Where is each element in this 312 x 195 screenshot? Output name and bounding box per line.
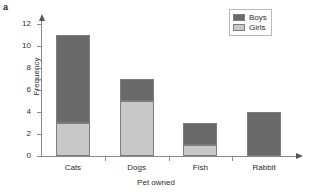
- bar-segment-dogs-boys[interactable]: [120, 79, 154, 101]
- bar-segment-cats-girls[interactable]: [56, 123, 90, 156]
- y-axis-title: Frequency: [32, 32, 41, 122]
- x-axis-tick: [105, 157, 106, 161]
- y-axis-tick: 12: [37, 24, 41, 25]
- x-axis-category-label: Cats: [65, 163, 81, 172]
- bar-group-fish[interactable]: [183, 123, 217, 156]
- bar-segment-rabbit-boys[interactable]: [247, 112, 281, 156]
- legend-swatch-girls: [233, 24, 245, 31]
- x-axis-category-label: Dogs: [127, 163, 146, 172]
- plot-area: 024681012 CatsDogsFishRabbit Frequency: [41, 20, 303, 156]
- y-axis-tick-label: 10: [22, 42, 31, 50]
- legend-label: Boys: [249, 14, 267, 22]
- bar-segment-fish-girls[interactable]: [183, 145, 217, 156]
- figure-panel-a: a 024681012 CatsDogsFishRabbit Frequency…: [0, 0, 312, 195]
- panel-label: a: [3, 2, 8, 12]
- x-axis-tick: [232, 157, 233, 161]
- y-axis-tick-label: 12: [22, 20, 31, 28]
- y-axis-tick-label: 6: [27, 86, 31, 94]
- bar-group-rabbit[interactable]: [247, 112, 281, 156]
- y-axis-tick-label: 4: [27, 108, 31, 116]
- x-axis-category-label: Fish: [193, 163, 208, 172]
- bar-segment-cats-boys[interactable]: [56, 35, 90, 123]
- bar-segment-fish-boys[interactable]: [183, 123, 217, 145]
- legend-row-boys[interactable]: Boys: [233, 13, 267, 22]
- y-axis-line: [41, 20, 42, 156]
- bar-group-dogs[interactable]: [120, 79, 154, 156]
- x-axis-tick: [169, 157, 170, 161]
- legend-label: Girls: [249, 24, 265, 32]
- y-axis-arrow-icon: [39, 14, 45, 21]
- y-axis-tick-label: 8: [27, 64, 31, 72]
- x-axis-category-label: Rabbit: [253, 163, 276, 172]
- legend-row-girls[interactable]: Girls: [233, 23, 267, 32]
- y-axis-tick: 0: [37, 156, 41, 157]
- x-axis-arrow-icon: [296, 153, 303, 159]
- y-axis-tick-label: 2: [27, 130, 31, 138]
- bar-group-cats[interactable]: [56, 35, 90, 156]
- legend: BoysGirls: [229, 9, 272, 36]
- legend-swatch-boys: [233, 14, 245, 21]
- y-axis-tick: 2: [37, 134, 41, 135]
- x-axis-title: Pet owned: [0, 178, 312, 187]
- bar-segment-dogs-girls[interactable]: [120, 101, 154, 156]
- y-axis-tick-label: 0: [27, 152, 31, 160]
